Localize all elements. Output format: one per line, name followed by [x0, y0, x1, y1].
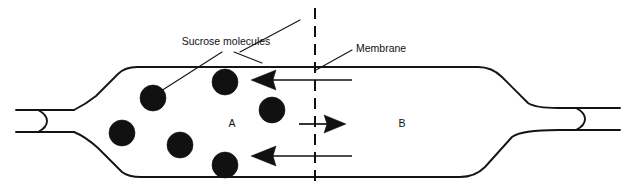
sucrose-molecule	[212, 69, 238, 95]
osmosis-diagram: Sucrose molecules Membrane A B	[0, 0, 632, 191]
leader-line-sucrose-2	[234, 52, 262, 63]
sucrose-molecule	[167, 132, 193, 158]
flow-arrow-sucrose-blocked	[299, 115, 346, 133]
region-b-label: B	[398, 117, 405, 129]
sucrose-molecule	[140, 85, 166, 111]
arrow-head-left	[251, 70, 276, 90]
sucrose-molecule	[109, 120, 135, 146]
left-tube	[16, 110, 74, 132]
region-a-label: A	[228, 117, 235, 129]
arrow-head-left	[251, 146, 276, 166]
membrane-label: Membrane	[356, 42, 406, 54]
right-tube	[558, 108, 620, 130]
sucrose-molecule	[212, 152, 238, 178]
arrow-head-right	[324, 115, 346, 133]
flow-arrow-water-in-bottom	[251, 146, 352, 166]
leader-line-sucrose-1	[150, 52, 222, 98]
left-tube-cap-arc	[38, 110, 47, 132]
right-tube-cap-arc	[576, 108, 585, 130]
sucrose-molecules-label: Sucrose molecules	[182, 35, 271, 47]
sucrose-molecule	[259, 97, 285, 123]
sucrose-molecule-group	[109, 69, 285, 178]
flow-arrow-water-in-top	[251, 70, 352, 90]
diagram-canvas: Sucrose molecules Membrane A B	[0, 0, 632, 191]
